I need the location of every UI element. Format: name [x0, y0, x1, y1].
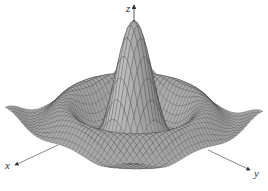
y-axis-line — [208, 150, 250, 170]
surface-mesh — [5, 20, 263, 169]
z-axis-label: z — [126, 3, 130, 14]
y-axis-label: y — [254, 168, 259, 179]
x-axis-label: x — [5, 160, 10, 171]
surface-plot — [0, 0, 268, 191]
x-axis-line — [15, 145, 58, 165]
